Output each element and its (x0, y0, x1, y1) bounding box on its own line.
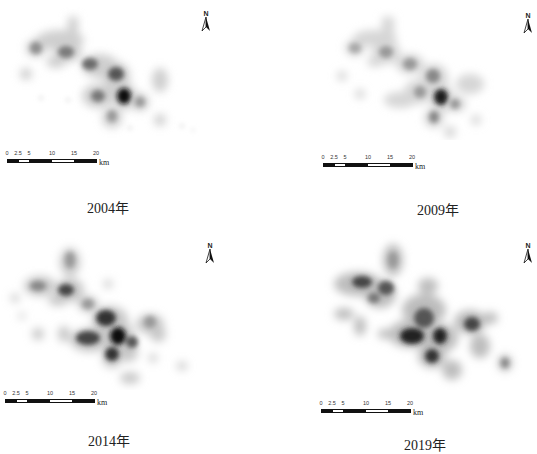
kernel-density-map-2009 (300, 0, 537, 140)
scale-bar-2009: 0 2.5 5 10 15 20 km (323, 154, 433, 174)
scale-bar-2019: 0 2.5 5 10 15 20 km (321, 400, 431, 420)
north-arrow-2019: N (521, 242, 535, 263)
map-panel-2014: N 0 2.5 5 10 15 20 km 2014年 (0, 230, 268, 454)
scale-tick: 15 (69, 390, 75, 396)
north-label: N (521, 12, 535, 19)
north-arrow-icon (523, 249, 533, 263)
scale-tick: 2.5 (328, 400, 336, 406)
scale-tick: 2.5 (330, 154, 338, 160)
kernel-density-map-2014 (0, 230, 268, 390)
scale-unit: km (415, 162, 425, 171)
scale-tick: 10 (49, 150, 55, 156)
north-label: N (203, 242, 217, 249)
scale-tick: 15 (387, 154, 393, 160)
scale-unit: km (413, 408, 423, 417)
scale-unit: km (97, 398, 107, 407)
scale-tick: 0 (5, 150, 8, 156)
scale-tick: 10 (363, 400, 369, 406)
scale-bar-2004: 0 2.5 5 10 15 20 km (7, 150, 117, 170)
kernel-density-map-2019 (300, 230, 537, 400)
north-arrow-2009: N (521, 12, 535, 33)
scale-tick: 5 (343, 154, 346, 160)
scale-tick: 5 (341, 400, 344, 406)
panel-caption-2019: 2019年 (404, 434, 446, 454)
scale-bar-2014: 0 2.5 5 10 15 20 km (5, 390, 115, 410)
map-panel-2009: N 0 2.5 5 10 15 20 km 2009年 (300, 0, 537, 225)
kernel-density-map-2004 (0, 0, 268, 140)
north-arrow-icon (205, 249, 215, 263)
scale-tick: 2.5 (14, 150, 22, 156)
scale-tick: 5 (27, 150, 30, 156)
scale-tick: 20 (409, 154, 415, 160)
scale-tick: 20 (91, 390, 97, 396)
scale-tick: 20 (407, 400, 413, 406)
north-arrow-icon (201, 17, 211, 31)
north-label: N (199, 10, 213, 17)
scale-tick: 10 (365, 154, 371, 160)
panel-caption-2004: 2004年 (87, 197, 129, 217)
north-arrow-icon (523, 19, 533, 33)
scale-tick: 20 (93, 150, 99, 156)
scale-tick: 0 (319, 400, 322, 406)
north-arrow-2004: N (199, 10, 213, 31)
scale-tick: 5 (25, 390, 28, 396)
scale-unit: km (99, 158, 109, 167)
panel-caption-2014: 2014年 (88, 430, 130, 450)
scale-tick: 0 (321, 154, 324, 160)
scale-tick: 10 (47, 390, 53, 396)
scale-tick: 2.5 (12, 390, 20, 396)
scale-tick: 0 (3, 390, 6, 396)
scale-tick: 15 (385, 400, 391, 406)
scale-tick: 15 (71, 150, 77, 156)
north-arrow-2014: N (203, 242, 217, 263)
map-panel-2004: N 0 2.5 5 10 15 20 km 2004年 (0, 0, 268, 225)
map-panel-2019: N 0 2.5 5 10 15 20 km 2019年 (300, 230, 537, 454)
panel-caption-2009: 2009年 (417, 199, 459, 219)
north-label: N (521, 242, 535, 249)
